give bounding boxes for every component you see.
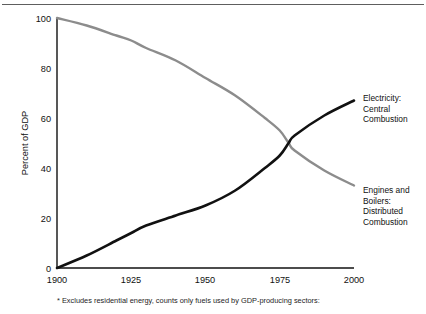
- series-label-electricity-line3: Combustion: [363, 114, 408, 125]
- series-line-engines-and-boilers: [57, 18, 354, 186]
- footnote-text: * Excludes residential energy, counts on…: [57, 296, 320, 305]
- series-label-engines-line4: Combustion: [363, 217, 410, 228]
- x-tick-label-2000: 2000: [344, 275, 364, 285]
- series-label-engines-and-boilers: Engines and Boilers: Distributed Combust…: [363, 185, 410, 227]
- series-label-engines-line2: Boilers:: [363, 196, 410, 207]
- y-tick-label-60: 60: [41, 114, 51, 124]
- chart-plot-area: 100 80 60 40 20 0 1900 1925 1950 1975 20…: [0, 0, 426, 314]
- x-tick-label-1950: 1950: [195, 275, 215, 285]
- series-line-electricity: [57, 101, 354, 269]
- y-tick-label-40: 40: [41, 164, 51, 174]
- series-label-electricity-line1: Electricity:: [363, 93, 408, 104]
- y-tick-label-20: 20: [41, 214, 51, 224]
- y-tick-label-100: 100: [36, 14, 51, 24]
- series-label-engines-line3: Distributed: [363, 206, 410, 217]
- x-tick-label-1900: 1900: [47, 275, 67, 285]
- x-tick-label-1925: 1925: [121, 275, 141, 285]
- series-label-electricity: Electricity: Central Combustion: [363, 93, 408, 125]
- y-tick-label-80: 80: [41, 64, 51, 74]
- x-tick-label-1975: 1975: [270, 275, 290, 285]
- series-label-engines-line1: Engines and: [363, 185, 410, 196]
- figure-chart: 100 80 60 40 20 0 1900 1925 1950 1975 20…: [0, 0, 426, 314]
- series-label-electricity-line2: Central: [363, 104, 408, 115]
- y-tick-label-0: 0: [46, 264, 51, 274]
- y-axis-title: Percent of GDP: [20, 111, 30, 175]
